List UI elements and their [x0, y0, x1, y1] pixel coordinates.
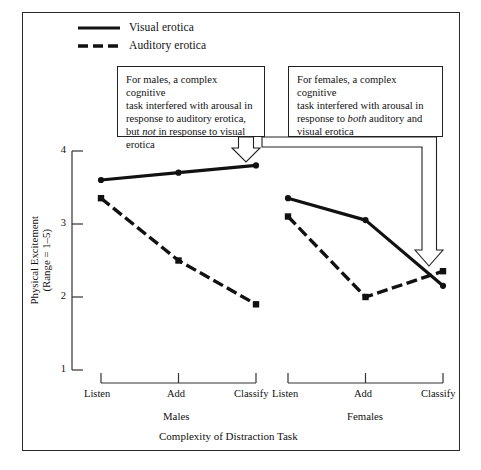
y-axis-title-wrap: Physical Excitement (Range = 1–5): [24, 196, 44, 326]
data-point-auditory-females-listen: [285, 213, 291, 219]
data-point-visual-males-classify: [253, 162, 259, 168]
y-axis-title-line1: Physical Excitement: [28, 195, 41, 325]
data-point-visual-females-add: [362, 217, 368, 223]
data-point-visual-males-add: [175, 170, 181, 176]
y-tick-label-1: 1: [52, 363, 66, 374]
y-axis-title-line2: (Range = 1–5): [40, 195, 53, 325]
x-tick-label-females-add: Add: [354, 388, 372, 399]
x-axis-title: Complexity of Distraction Task: [159, 430, 298, 442]
plot-layer: [0, 0, 481, 470]
data-point-auditory-females-add: [362, 294, 368, 300]
data-point-auditory-males-classify: [253, 301, 259, 307]
y-tick-label-2: 2: [52, 290, 66, 301]
y-tick-label-3: 3: [52, 217, 66, 228]
x-tick-label-males-add: Add: [167, 388, 185, 399]
x-tick-label-males-listen: Listen: [84, 388, 110, 399]
x-tick-label-females-classify: Classify: [421, 388, 455, 399]
data-point-visual-females-listen: [285, 195, 291, 201]
data-point-auditory-males-listen: [98, 195, 104, 201]
data-point-auditory-males-add: [175, 257, 181, 263]
chart-page: Visual erotica Auditory erotica For male…: [0, 0, 481, 470]
series-auditory-females-line: [288, 217, 443, 298]
group-label-females: Females: [347, 410, 383, 422]
group-label-males: Males: [163, 410, 189, 422]
data-point-auditory-females-classify: [440, 268, 446, 274]
data-point-visual-males-listen: [98, 177, 104, 183]
x-tick-label-males-classify: Classify: [234, 388, 268, 399]
y-tick-label-4: 4: [52, 144, 66, 155]
data-point-visual-females-classify: [440, 283, 446, 289]
series-auditory-males-line: [101, 198, 256, 304]
x-tick-label-females-listen: Listen: [272, 388, 298, 399]
